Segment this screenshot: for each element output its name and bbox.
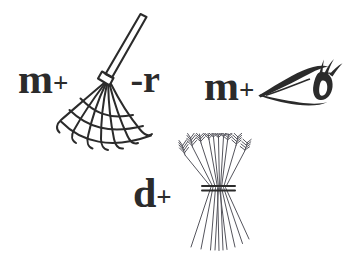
wheat-sheaf-icon	[175, 133, 261, 251]
rebus-plus-sign-sheaf: +	[156, 184, 171, 211]
rebus-canvas: m + -r m +	[0, 0, 364, 256]
rebus-minus-r: -r	[130, 60, 160, 98]
rebus-letter-m-rake: m	[18, 58, 53, 100]
rebus-equation-sheaf: d +	[133, 172, 172, 214]
sheaf-tie-band	[202, 186, 235, 191]
rebus-equation-eye: m +	[204, 58, 344, 114]
rebus-letter-m-eye: m	[204, 65, 239, 107]
rebus-equation-rake: m + -r	[18, 58, 160, 100]
rebus-letter-d-sheaf: d	[133, 172, 156, 214]
eye-icon	[256, 58, 344, 114]
rebus-plus-sign-eye: +	[239, 77, 254, 104]
rebus-plus-sign-rake: +	[53, 70, 68, 97]
